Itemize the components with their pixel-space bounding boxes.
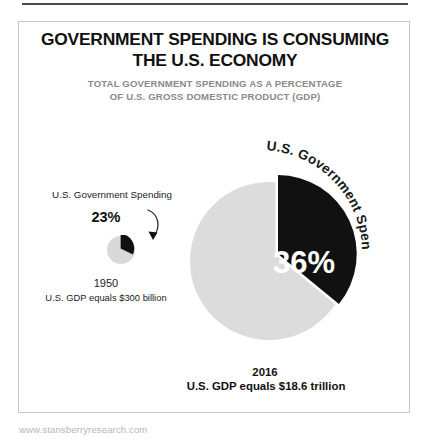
page-title-line-1: GOVERNMENT SPENDING IS CONSUMING	[24, 29, 406, 50]
pie-chart-2016: 36% U.S. Government Spending	[172, 118, 422, 354]
page-title: GOVERNMENT SPENDING IS CONSUMING THE U.S…	[24, 29, 406, 71]
page-subtitle: TOTAL GOVERNMENT SPENDING AS A PERCENTAG…	[24, 77, 406, 103]
infographic-canvas: GOVERNMENT SPENDING IS CONSUMING THE U.S…	[0, 0, 430, 448]
page-subtitle-line-1: TOTAL GOVERNMENT SPENDING AS A PERCENTAG…	[24, 77, 406, 90]
year-label-2016: 2016	[150, 366, 380, 378]
pie-2016-percent-label: 36%	[273, 245, 335, 280]
curved-arrow-head	[149, 232, 158, 241]
source-url-watermark: www.stansberryresearch.com	[19, 424, 147, 435]
top-rule-divider	[22, 3, 408, 5]
gdp-label-2016: U.S. GDP equals $18.6 trillion	[140, 380, 392, 392]
pie-chart-1950	[106, 235, 136, 265]
curved-arrow-icon	[140, 207, 174, 249]
page-subtitle-line-2: OF U.S. GROSS DOMESTIC PRODUCT (GDP)	[24, 90, 406, 103]
page-title-line-2: THE U.S. ECONOMY	[24, 50, 406, 71]
